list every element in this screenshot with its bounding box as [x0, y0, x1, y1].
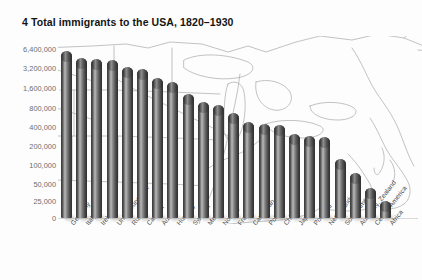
bar: [107, 60, 118, 218]
bar-body: [198, 102, 209, 218]
bar-body: [91, 59, 102, 218]
bar-body: [167, 82, 178, 218]
bar: [259, 124, 270, 218]
bar: [122, 67, 133, 218]
bar-body: [289, 134, 300, 218]
bar: [213, 105, 224, 218]
bar: [91, 59, 102, 218]
bar: [319, 137, 330, 218]
bar-body: [243, 122, 254, 218]
bar: [152, 78, 163, 218]
bar-body: [319, 137, 330, 218]
bar: [289, 134, 300, 218]
bar: [183, 94, 194, 218]
bar-series: GermanyItalyIrelandUnited KingdomRussiaC…: [0, 0, 422, 280]
bar-body: [76, 58, 87, 218]
bar: [198, 102, 209, 218]
bar: [380, 201, 391, 218]
bar-body: [380, 201, 391, 218]
bar-body: [137, 69, 148, 218]
bar-body: [183, 94, 194, 218]
bar-body: [335, 159, 346, 218]
bar-body: [274, 125, 285, 218]
bar-body: [350, 173, 361, 218]
bar: [243, 122, 254, 218]
bar-body: [365, 188, 376, 218]
bar-body: [259, 124, 270, 218]
bar-body: [304, 136, 315, 218]
bar-body: [107, 60, 118, 218]
bar: [137, 69, 148, 218]
bar-body: [61, 51, 72, 218]
bar: [350, 173, 361, 218]
bar-body: [152, 78, 163, 218]
chart-figure: 4 Total immigrants to the USA, 1820–1930: [0, 0, 422, 280]
bar: [228, 113, 239, 218]
bar: [61, 51, 72, 218]
bar: [365, 188, 376, 218]
bar-body: [122, 67, 133, 218]
bar: [167, 82, 178, 218]
bar: [274, 125, 285, 218]
bar: [335, 159, 346, 218]
bar: [76, 58, 87, 218]
bar-body: [213, 105, 224, 218]
bar-body: [228, 113, 239, 218]
bar: [304, 136, 315, 218]
